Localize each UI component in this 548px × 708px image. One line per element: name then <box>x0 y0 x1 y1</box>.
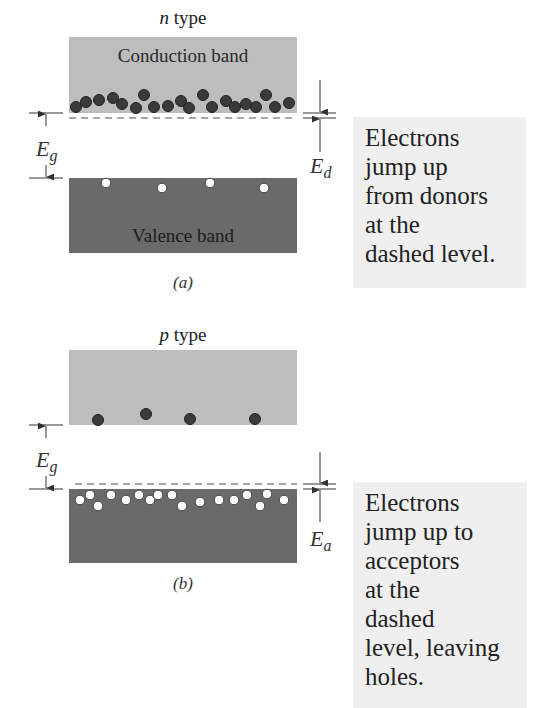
caption-line: holes. <box>365 662 515 691</box>
electron-dot <box>261 90 272 101</box>
caption-box-n-type: Electronsjump upfrom donorsat thedashed … <box>353 117 526 288</box>
valence-band-b <box>69 489 297 563</box>
electron-dot <box>198 90 209 101</box>
panel-b-p-type: p type Eg Ea (b) <box>29 324 336 593</box>
electron-dot <box>241 99 252 110</box>
electron-dot <box>270 102 281 113</box>
donor-energy-bracket: Ed <box>303 80 336 181</box>
hole-dot <box>262 489 272 499</box>
hole-dot <box>259 183 269 193</box>
acceptor-energy-label: Ea <box>309 526 331 554</box>
conduction-band-b <box>69 350 297 425</box>
panel-b-sublabel: (b) <box>173 574 193 593</box>
electron-dot <box>149 102 160 113</box>
electron-dot <box>184 103 195 114</box>
valence-band-label-a: Valence band <box>132 225 234 246</box>
band-gap-bracket-a: Eg <box>29 113 63 178</box>
hole-dot <box>195 497 205 507</box>
hole-dot <box>93 501 103 511</box>
band-gap-bracket-b: Eg <box>29 425 63 489</box>
electron-dot <box>141 409 152 420</box>
hole-dot <box>153 490 163 500</box>
caption-line: Electrons <box>365 123 514 152</box>
electron-dot <box>185 414 196 425</box>
caption-line: dashed level. <box>365 239 514 268</box>
panel-a-sublabel: (a) <box>173 273 193 292</box>
electron-dot <box>250 414 261 425</box>
electron-dot <box>81 97 92 108</box>
caption-line: jump up <box>365 152 514 181</box>
conduction-band-label-a: Conduction band <box>118 45 249 66</box>
panel-a-n-type: n type Conduction band Valence band Eg <box>29 7 336 292</box>
hole-dot <box>157 183 167 193</box>
acceptor-energy-bracket: Ea <box>303 452 336 554</box>
caption-line: jump up to <box>365 517 515 546</box>
hole-dot <box>205 178 215 188</box>
caption-line: level, leaving <box>365 633 515 662</box>
caption-line: Electrons <box>365 488 515 517</box>
caption-line: dashed <box>365 604 515 633</box>
electron-dot <box>117 99 128 110</box>
hole-dot <box>167 490 177 500</box>
hole-dot <box>121 495 131 505</box>
electron-dot <box>94 95 105 106</box>
hole-dot <box>75 495 85 505</box>
caption-box-p-type: Electronsjump up toacceptorsat thedashed… <box>353 482 527 708</box>
electron-dot <box>284 98 295 109</box>
caption-line: from donors <box>365 181 514 210</box>
electron-dot <box>207 102 218 113</box>
electron-dot <box>93 415 104 426</box>
hole-dot <box>101 178 111 188</box>
electron-dot <box>131 103 142 114</box>
hole-dot <box>177 501 187 511</box>
hole-dot <box>255 501 265 511</box>
band-gap-label-b: Eg <box>35 447 57 476</box>
caption-line: at the <box>365 210 514 239</box>
hole-dot <box>279 495 289 505</box>
panel-b-title: p type <box>158 324 207 345</box>
hole-dot <box>229 495 239 505</box>
caption-line: at the <box>365 575 515 604</box>
electron-dot <box>163 101 174 112</box>
electron-dot <box>71 102 82 113</box>
band-gap-label-a: Eg <box>35 136 57 165</box>
hole-dot <box>214 495 224 505</box>
electron-dot <box>139 90 150 101</box>
donor-energy-label: Ed <box>309 153 332 181</box>
panel-a-title: n type <box>160 7 207 28</box>
hole-dot <box>85 490 95 500</box>
electron-dot <box>230 102 241 113</box>
hole-dot <box>134 490 144 500</box>
hole-dot <box>242 490 252 500</box>
caption-line: acceptors <box>365 546 515 575</box>
electron-dot <box>251 102 262 113</box>
hole-dot <box>106 490 116 500</box>
